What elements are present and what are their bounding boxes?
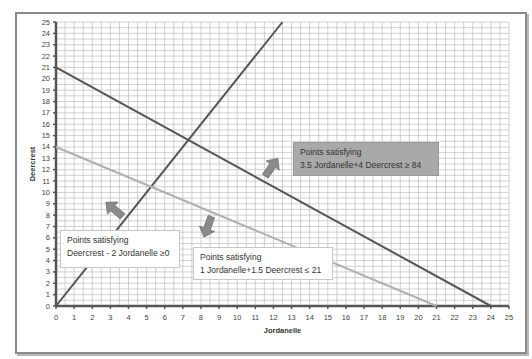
y-tick-label: 19 — [42, 86, 50, 95]
x-tick-label: 19 — [396, 313, 404, 322]
y-tick-label: 3 — [46, 267, 50, 276]
x-tick-label: 16 — [342, 313, 350, 322]
x-tick-label: 21 — [432, 313, 440, 322]
callout-line2: 3.5 Jordanelle+4 Deercrest ≥ 84 — [300, 159, 432, 172]
y-tick-label: 7 — [46, 222, 50, 231]
arrow-icon — [259, 154, 285, 181]
x-axis-label: Jordanelle — [264, 326, 302, 335]
y-axis-label: Deercrest — [28, 146, 37, 181]
y-tick-label: 24 — [42, 29, 50, 38]
x-tick-label: 6 — [163, 313, 167, 322]
y-tick-label: 12 — [42, 165, 50, 174]
y-tick-label: 8 — [46, 211, 50, 220]
x-tick-label: 1 — [72, 313, 76, 322]
y-tick-label: 13 — [42, 154, 50, 163]
y-tick-label: 15 — [42, 131, 50, 140]
y-tick-label: 2 — [46, 279, 50, 288]
x-tick-label: 10 — [233, 313, 241, 322]
x-tick-label: 12 — [269, 313, 277, 322]
x-tick-label: 25 — [505, 313, 513, 322]
y-tick-label: 22 — [42, 52, 50, 61]
x-tick-label: 14 — [306, 313, 314, 322]
callout-line2: 1 Jordanelle+1.5 Deercrest ≤ 21 — [200, 264, 326, 277]
x-tick-label: 22 — [450, 313, 458, 322]
x-tick-label: 5 — [145, 313, 149, 322]
x-tick-label: 15 — [324, 313, 332, 322]
x-tick-label: 7 — [181, 313, 185, 322]
x-tick-label: 0 — [54, 313, 58, 322]
x-tick-label: 13 — [287, 313, 295, 322]
x-tick-label: 20 — [414, 313, 422, 322]
x-tick-label: 3 — [108, 313, 112, 322]
x-tick-label: 9 — [217, 313, 221, 322]
y-tick-label: 5 — [46, 245, 50, 254]
arrow-icon — [196, 214, 219, 240]
callout-line1: Points satisfying — [200, 251, 326, 264]
x-tick-label: 8 — [199, 313, 203, 322]
y-tick-label: 23 — [42, 40, 50, 49]
x-tick-label: 4 — [126, 313, 130, 322]
x-tick-label: 24 — [487, 313, 495, 322]
y-tick-label: 0 — [46, 302, 50, 311]
y-tick-label: 4 — [46, 256, 50, 265]
y-tick-label: 18 — [42, 97, 50, 106]
y-tick-label: 10 — [42, 188, 50, 197]
y-tick-label: 25 — [42, 18, 50, 27]
y-tick-label: 20 — [42, 74, 50, 83]
x-tick-label: 17 — [360, 313, 368, 322]
y-tick-label: 9 — [46, 199, 50, 208]
callout-line1: Points satisfying — [67, 234, 173, 247]
y-tick-label: 16 — [42, 120, 50, 129]
chart-plot: 0123456789101112131415161718192021222324… — [0, 0, 532, 359]
x-tick-label: 23 — [469, 313, 477, 322]
callout-constraint-1: Points satisfying Deercrest - 2 Jordanel… — [60, 230, 180, 268]
callout-constraint-3: Points satisfying 3.5 Jordanelle+4 Deerc… — [293, 142, 439, 176]
x-tick-label: 18 — [378, 313, 386, 322]
callout-line1: Points satisfying — [300, 146, 432, 159]
y-tick-label: 11 — [42, 177, 50, 186]
x-tick-label: 11 — [251, 313, 259, 322]
y-tick-label: 1 — [46, 290, 50, 299]
y-tick-label: 21 — [42, 63, 50, 72]
y-tick-label: 14 — [42, 142, 50, 151]
y-tick-label: 17 — [42, 108, 50, 117]
y-tick-label: 6 — [46, 233, 50, 242]
x-tick-label: 2 — [90, 313, 94, 322]
callout-constraint-2: Points satisfying 1 Jordanelle+1.5 Deerc… — [193, 247, 333, 280]
callout-line2: Deercrest - 2 Jordanelle ≥0 — [67, 247, 173, 260]
